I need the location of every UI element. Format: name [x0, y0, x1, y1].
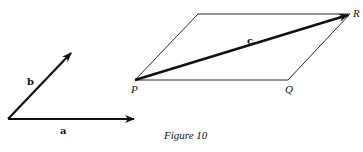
vector-b	[8, 53, 71, 119]
label-c: c	[247, 35, 253, 46]
vector-c	[135, 15, 348, 80]
label-P: P	[130, 83, 138, 95]
label-b: b	[27, 76, 34, 87]
label-Q: Q	[285, 83, 293, 95]
figure-caption: Figure 10	[163, 129, 208, 141]
label-R: R	[352, 7, 360, 19]
vector-addition-diagram: b a c P Q R Figure 10	[0, 0, 363, 152]
label-a: a	[60, 125, 67, 136]
